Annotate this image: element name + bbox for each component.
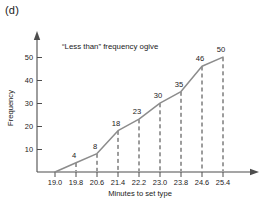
chart-annotation: “Less than” frequency ogive [62, 42, 158, 51]
x-tick-label: 23.0 [153, 178, 167, 187]
point-label: 23 [133, 107, 141, 116]
x-tick-label: 19.0 [48, 178, 62, 187]
x-tick-label: 25.4 [216, 178, 230, 187]
y-tick-label: 40 [25, 76, 33, 85]
point-label: 30 [154, 91, 162, 100]
x-axis-arrow-icon [250, 169, 259, 175]
y-tick-label: 30 [25, 99, 33, 108]
point-label: 46 [196, 54, 204, 63]
y-tick-label: 20 [25, 122, 33, 131]
y-axis-title: Frequency [6, 90, 15, 126]
x-axis-title: Minutes to set type [108, 189, 172, 198]
x-tick-label: 22.2 [132, 178, 146, 187]
point-label: 50 [217, 45, 225, 54]
point-label: 18 [112, 119, 120, 128]
dropline-group [76, 57, 223, 171]
y-tick-group: 10 20 30 40 50 [25, 53, 42, 154]
x-tick-label: 20.6 [90, 178, 104, 187]
point-label: 35 [175, 80, 183, 89]
x-tick-label: 19.8 [69, 178, 83, 187]
x-tick-label: 21.4 [111, 178, 125, 187]
y-axis-arrow-icon [34, 31, 40, 40]
x-tick-label: 23.8 [174, 178, 188, 187]
x-tick-group: 19.0 19.8 20.6 21.4 22.2 23.0 23.8 24.6 … [48, 172, 230, 187]
point-label: 4 [72, 151, 76, 160]
y-tick-label: 10 [25, 145, 33, 154]
figure-panel: (d) 10 20 30 40 50 [0, 0, 262, 200]
x-tick-label: 24.6 [195, 178, 209, 187]
point-label: 8 [93, 142, 97, 151]
y-tick-label: 50 [25, 53, 33, 62]
ogive-chart: 10 20 30 40 50 19.0 19.8 20.6 21.4 22.2 … [0, 0, 262, 200]
